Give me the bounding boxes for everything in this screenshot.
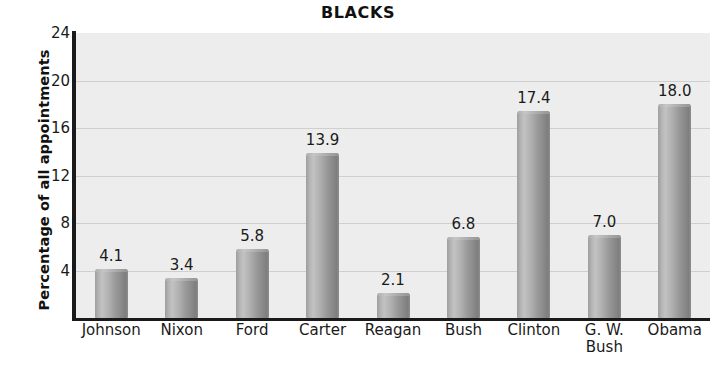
x-tick-label: Bush (428, 322, 498, 339)
y-tick-label: 8 (30, 216, 70, 231)
bar-value-label: 2.1 (363, 273, 424, 288)
bar (377, 293, 410, 318)
bar-value-label: 3.4 (151, 258, 212, 273)
bar-value-label: 4.1 (81, 249, 142, 264)
bar-group: 7.0 (588, 33, 621, 318)
bar-group: 13.9 (306, 33, 339, 318)
x-tick-label: Nixon (146, 322, 216, 339)
y-tick-label: 16 (30, 121, 70, 136)
bar-chart: BLACKS Percentage of all appointments 4.… (0, 0, 716, 382)
bar (447, 237, 480, 318)
bar-value-label: 17.4 (503, 91, 564, 106)
bar-group: 2.1 (377, 33, 410, 318)
y-tick-label: 20 (30, 74, 70, 89)
bar-group: 6.8 (447, 33, 480, 318)
bar (517, 111, 550, 318)
y-tick-label: 12 (30, 169, 70, 184)
x-tick-label: Obama (640, 322, 710, 339)
bar-value-label: 6.8 (433, 217, 494, 232)
y-tick-label: 24 (30, 26, 70, 41)
bar-value-label: 7.0 (574, 215, 635, 230)
bar-group: 3.4 (165, 33, 198, 318)
y-tick-label: 4 (30, 264, 70, 279)
plot-area: 4.13.45.813.92.16.817.47.018.0 (76, 33, 710, 318)
x-tick-label: Carter (287, 322, 357, 339)
bar (165, 278, 198, 318)
bar (95, 269, 128, 318)
x-tick-label: Johnson (76, 322, 146, 339)
bar (658, 104, 691, 318)
bar-group: 18.0 (658, 33, 691, 318)
bar-group: 5.8 (236, 33, 269, 318)
chart-title: BLACKS (0, 3, 716, 22)
bar-value-label: 13.9 (292, 133, 353, 148)
bar-value-label: 5.8 (222, 229, 283, 244)
y-axis-line (72, 31, 76, 320)
x-tick-label: G. W. Bush (569, 322, 639, 356)
x-tick-label: Ford (217, 322, 287, 339)
bar-group: 4.1 (95, 33, 128, 318)
x-tick-label: Clinton (499, 322, 569, 339)
bar (236, 249, 269, 318)
x-tick-label: Reagan (358, 322, 428, 339)
bar-value-label: 18.0 (644, 84, 705, 99)
bar (306, 153, 339, 318)
bar (588, 235, 621, 318)
bar-group: 17.4 (517, 33, 550, 318)
